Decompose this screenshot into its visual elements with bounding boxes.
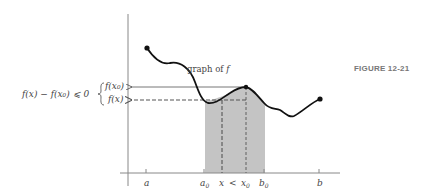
x-axis-labels: a a0 x < x0 b0 b bbox=[144, 178, 323, 189]
label-lt: < bbox=[229, 178, 237, 188]
curve-label: graph of f bbox=[187, 64, 231, 74]
f-x-label: f(x) bbox=[107, 94, 124, 104]
left-brace bbox=[98, 83, 104, 105]
inequality-lhs: f(x) − f(x₀) ⩽ 0 bbox=[21, 89, 89, 99]
curve-peak-point bbox=[244, 85, 248, 89]
f-x0-label: f(x₀) bbox=[104, 81, 125, 91]
curve-start-point bbox=[144, 45, 149, 50]
label-b0: b0 bbox=[259, 178, 269, 189]
label-a: a bbox=[144, 178, 149, 188]
label-b: b bbox=[317, 178, 323, 188]
label-x: x bbox=[219, 178, 224, 188]
figure-caption: FIGURE 12-21 bbox=[354, 64, 409, 73]
curve-end-point bbox=[317, 96, 322, 101]
label-a0: a0 bbox=[200, 178, 209, 189]
figure-12-21: graph of f f(x) − f(x₀) ⩽ 0 f(x₀) f(x) a… bbox=[0, 0, 432, 196]
label-x0: x0 bbox=[241, 178, 250, 189]
